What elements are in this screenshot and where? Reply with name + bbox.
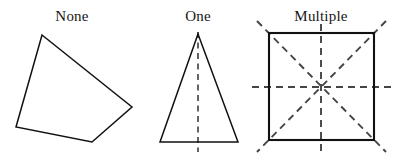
figure-none: None bbox=[16, 8, 132, 142]
figure-one-label: One bbox=[185, 8, 211, 24]
isosceles-triangle-shape bbox=[160, 34, 238, 142]
figure-canvas: None One Multiple bbox=[0, 0, 404, 160]
figure-none-label: None bbox=[55, 8, 88, 24]
figure-multiple-label: Multiple bbox=[294, 8, 347, 24]
irregular-quadrilateral-shape bbox=[16, 35, 132, 142]
figure-one: One bbox=[160, 8, 238, 152]
figure-multiple: Multiple bbox=[252, 8, 392, 152]
lines-of-symmetry-figure: None One Multiple bbox=[0, 0, 404, 160]
